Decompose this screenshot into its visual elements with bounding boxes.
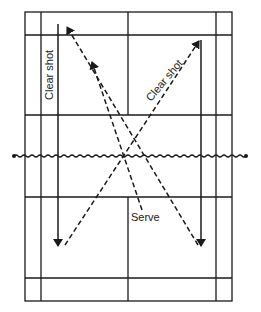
serve-path	[92, 62, 142, 210]
clear-shot-left-label: Clear shot	[43, 50, 55, 100]
badminton-court-diagram: Clear shot Clear shot Serve	[0, 0, 261, 312]
serve-label: Serve	[131, 211, 160, 223]
clear-shot-right-label: Clear shot	[143, 57, 184, 103]
shot-paths	[58, 24, 201, 246]
net	[12, 154, 248, 158]
net-post-right	[244, 154, 248, 158]
net-post-left	[12, 154, 16, 158]
net-line	[14, 155, 246, 157]
